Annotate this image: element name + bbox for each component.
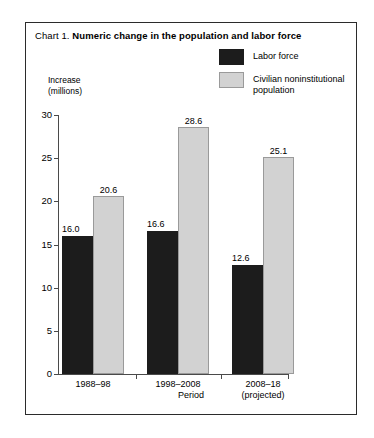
chart-title-text: Numeric change in the population and lab…: [72, 30, 301, 41]
chart-title: Chart 1. Numeric change in the populatio…: [35, 30, 301, 42]
bar-value-label: 28.6: [185, 116, 203, 126]
legend-item-labor-force: Labor force: [219, 49, 351, 65]
x-axis-end-tick: [288, 374, 289, 379]
bar-labor-force: 12.6: [232, 265, 263, 374]
bar-civilian-population: 28.6: [178, 127, 209, 374]
bar-civilian-population: 20.6: [93, 196, 124, 374]
legend-label-labor-force: Labor force: [253, 49, 299, 62]
y-axis-tick-mark: [54, 245, 58, 246]
y-axis-tick-mark: [54, 374, 58, 375]
x-axis-category-label: 1988–98: [75, 379, 110, 390]
x-axis-category-label: 1998–2008: [155, 379, 200, 390]
bar-labor-force: 16.0: [62, 236, 93, 374]
y-axis-tick-mark: [54, 331, 58, 332]
bar-value-label: 16.0: [62, 224, 80, 234]
y-axis-tick-mark: [54, 115, 58, 116]
x-axis-line: [58, 374, 289, 375]
y-axis-tick-mark: [54, 288, 58, 289]
legend-label-civilian-population: Civilian noninstitutional population: [253, 72, 351, 96]
y-axis-line: [58, 115, 59, 374]
y-axis-tick-label: 5: [47, 325, 52, 336]
chart-legend: Labor force Civilian noninstitutional po…: [219, 49, 351, 103]
y-axis-tick-label: 30: [41, 109, 52, 120]
x-axis-title: Period: [26, 390, 356, 400]
y-axis-title: Increase (millions): [48, 75, 82, 97]
y-axis-tick-label: 0: [47, 368, 52, 379]
plot-area: 051015202530 16.020.616.628.612.625.1 19…: [58, 115, 289, 374]
bar-value-label: 25.1: [270, 146, 288, 156]
y-axis-tick-mark: [54, 158, 58, 159]
legend-item-civilian-population: Civilian noninstitutional population: [219, 72, 351, 96]
y-axis-tick-label: 20: [41, 195, 52, 206]
bar-value-label: 16.6: [147, 219, 165, 229]
y-axis-tick-label: 25: [41, 152, 52, 163]
x-axis-group-tick: [221, 374, 222, 379]
y-axis-tick-label: 10: [41, 282, 52, 293]
bar-civilian-population: 25.1: [263, 157, 294, 374]
y-axis-tick-mark: [54, 201, 58, 202]
x-axis-group-tick: [136, 374, 137, 379]
chart-figure-frame: Chart 1. Numeric change in the populatio…: [25, 22, 357, 415]
legend-swatch-labor-force: [219, 49, 244, 65]
y-axis-tick-label: 15: [41, 239, 52, 250]
bar-value-label: 12.6: [232, 253, 250, 263]
legend-swatch-civilian-population: [219, 72, 244, 88]
bar-value-label: 20.6: [100, 185, 118, 195]
chart-title-number: Chart 1.: [35, 30, 70, 41]
bar-labor-force: 16.6: [147, 231, 178, 374]
